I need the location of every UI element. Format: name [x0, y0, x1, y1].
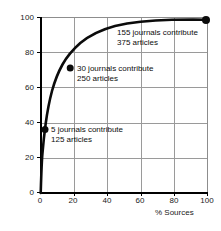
y-tick-label-20: 20: [12, 153, 34, 162]
annotation-155-journals-line2: 375 articles: [117, 38, 198, 48]
bradford-distribution-chart: % Articles 100 80 60 40 20 0 0 20 40 60 …: [0, 0, 221, 231]
x-tick-mark-80: [174, 193, 175, 196]
annotation-155-journals-line1: 155 journals contribute: [117, 28, 198, 37]
x-tick-label-100: 100: [195, 196, 219, 205]
annotation-155-journals: 155 journals contribute 375 articles: [117, 28, 198, 47]
x-tick-mark-40: [107, 193, 108, 196]
x-tick-label-0: 0: [28, 196, 52, 205]
x-tick-label-60: 60: [128, 196, 152, 205]
data-point-marker-3: [202, 16, 210, 24]
x-tick-mark-100: [207, 193, 208, 196]
x-tick-label-40: 40: [95, 196, 119, 205]
data-point-marker-1: [42, 126, 49, 133]
y-tick-label-60: 60: [12, 83, 34, 92]
data-point-marker-2: [67, 65, 74, 72]
annotation-30-journals: 30 journals contribute 250 articles: [77, 64, 154, 83]
annotation-30-journals-line1: 30 journals contribute: [77, 64, 154, 73]
annotation-5-journals: 5 journals contribute 125 articles: [51, 125, 123, 144]
annotation-30-journals-line2: 250 articles: [77, 74, 154, 84]
x-axis-title: % Sources: [155, 208, 194, 217]
annotation-5-journals-line2: 125 articles: [51, 135, 123, 145]
y-tick-label-40: 40: [12, 118, 34, 127]
x-tick-mark-60: [141, 193, 142, 196]
y-tick-label-80: 80: [12, 48, 34, 57]
x-tick-mark-20: [74, 193, 75, 196]
x-tick-label-80: 80: [162, 196, 186, 205]
y-tick-label-100: 100: [12, 13, 34, 22]
x-tick-label-20: 20: [61, 196, 85, 205]
annotation-5-journals-line1: 5 journals contribute: [51, 125, 123, 134]
